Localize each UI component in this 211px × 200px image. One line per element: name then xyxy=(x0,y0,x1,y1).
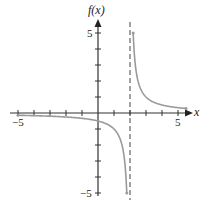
y-axis-label: f(x) xyxy=(88,4,105,16)
x-axis-arrow-icon xyxy=(185,110,193,117)
x-min-label: −5 xyxy=(12,117,24,128)
endpoint-left-bottom xyxy=(125,192,128,195)
endpoint-right xyxy=(185,107,188,110)
function-graph xyxy=(0,0,211,200)
y-max-label: 5 xyxy=(87,28,93,39)
endpoint-right-top xyxy=(132,32,135,35)
y-min-label: −5 xyxy=(80,188,92,199)
x-max-label: 5 xyxy=(175,117,181,128)
y-axis-arrow-icon xyxy=(95,19,102,27)
curve-left-branch xyxy=(18,115,127,193)
curve-right-branch xyxy=(133,33,186,108)
axes xyxy=(10,26,186,196)
x-axis-label: x xyxy=(194,106,199,118)
